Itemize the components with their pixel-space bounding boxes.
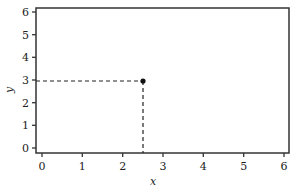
data-point <box>140 78 145 83</box>
x-tick-label: 2 <box>119 160 126 173</box>
y-tick-label: 6 <box>22 6 29 19</box>
y-tick-label: 3 <box>22 74 29 87</box>
x-tick-label: 6 <box>281 160 288 173</box>
x-tick-label: 3 <box>160 160 167 173</box>
y-tick-label: 5 <box>22 29 29 42</box>
x-tick-label: 4 <box>200 160 207 173</box>
x-tick-label: 0 <box>39 160 46 173</box>
y-axis-label: y <box>3 86 16 94</box>
chart: 0 1 2 3 4 5 6 0 1 2 3 4 5 6 x y <box>0 0 298 193</box>
x-tick-label: 1 <box>79 160 86 173</box>
y-tick-label: 1 <box>22 119 29 132</box>
y-tick-label: 2 <box>22 97 29 110</box>
y-tick-label: 4 <box>22 51 29 64</box>
x-axis-label: x <box>150 175 157 188</box>
x-tick-label: 5 <box>240 160 247 173</box>
y-tick-label: 0 <box>22 142 29 155</box>
